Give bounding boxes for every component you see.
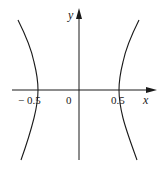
x-axis-label: x [142, 93, 149, 107]
x-tick-0-5: 0.5 [111, 94, 125, 106]
y-axis-arrow-icon [76, 8, 82, 19]
hyperbola-plot: y x 0 − 0.5 0.5 [0, 0, 163, 169]
y-axis-label: y [67, 8, 74, 22]
x-tick-neg-0-5: − 0.5 [18, 94, 41, 106]
origin-label: 0 [66, 94, 72, 106]
